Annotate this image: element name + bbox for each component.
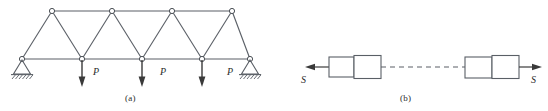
truss-diagonal (172, 11, 202, 59)
load-label-p3: P (227, 66, 233, 77)
force-arrow-right (519, 64, 542, 71)
block (329, 57, 354, 77)
truss-diagonal (112, 11, 142, 59)
load-label-p1: P (93, 66, 99, 77)
truss-diagonal (82, 11, 112, 59)
panel-caption-b: (b) (400, 93, 411, 103)
load-arrow-p1 (79, 60, 86, 87)
block-group-right (465, 56, 519, 79)
support-pin-right (239, 60, 261, 79)
truss-diagonal (22, 11, 52, 59)
figure-canvas (0, 0, 548, 111)
support-pin-left (11, 60, 33, 79)
support-hatching (240, 75, 261, 79)
figure-root: P P P S S (a) (b) (0, 0, 548, 111)
truss-web-members (22, 11, 250, 59)
arrowhead (305, 64, 315, 71)
block-group-left (329, 56, 381, 79)
truss-joint (229, 8, 234, 13)
panel-a-truss (11, 8, 261, 87)
load-label-p2: P (160, 66, 166, 77)
arrowhead (139, 77, 146, 88)
arrowhead (79, 77, 86, 88)
truss-diagonal (202, 11, 232, 59)
panel-b-blocks (305, 56, 542, 79)
truss-joint (169, 8, 174, 13)
truss-diagonal (52, 11, 82, 59)
truss-joint (109, 8, 114, 13)
load-arrow-p2 (139, 60, 146, 87)
truss-diagonal (232, 11, 250, 59)
force-label-s-left: S (301, 74, 306, 85)
load-arrow-p3 (199, 60, 206, 87)
truss-joint (49, 8, 54, 13)
block (354, 56, 381, 79)
block (492, 56, 519, 79)
arrowhead (532, 64, 542, 71)
support-hatching (12, 75, 33, 79)
panel-caption-a: (a) (125, 93, 136, 103)
block (465, 57, 492, 78)
arrowhead (199, 77, 206, 88)
truss-diagonal (142, 11, 172, 59)
force-arrow-left (305, 64, 329, 71)
force-label-s-right: S (531, 74, 536, 85)
